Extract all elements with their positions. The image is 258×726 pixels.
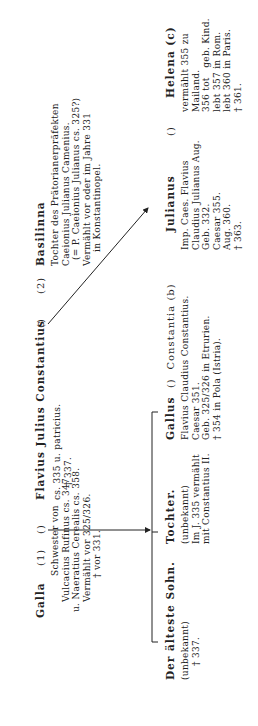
- gallus-name: Gallus () Constantia (b): [164, 283, 176, 440]
- eldest-son-name: Der älteste Sohn.: [164, 561, 176, 680]
- daughter-details: (unbekannt) Im J. 335 vermählt mit Const…: [180, 453, 212, 544]
- gallus-spouse: Constantia (b): [165, 283, 176, 369]
- marriage-symbol-julianus: (): [165, 126, 176, 136]
- genealogy-diagram: Galla (1) () Schwester von Vulcacius Ruf…: [0, 0, 258, 726]
- julianus-details: Imp. Caes. Flavius Claudius Julianus Aug…: [180, 140, 243, 250]
- helena-name: Helena (c): [164, 26, 176, 98]
- eldest-son-details: (unbekannt) † 337.: [180, 621, 201, 680]
- daughter-name: Tochter.: [164, 489, 176, 544]
- gallus-details: Flavius Claudius Constantius. Caesar 351…: [180, 295, 222, 440]
- helena-details: vermählt 355 zu Mailand. 356 tot geb. Ki…: [180, 18, 243, 112]
- julianus-name: Julianus: [164, 175, 176, 232]
- descent-arrow-2: [48, 208, 148, 324]
- marriage-symbol-gallus: (): [165, 378, 176, 388]
